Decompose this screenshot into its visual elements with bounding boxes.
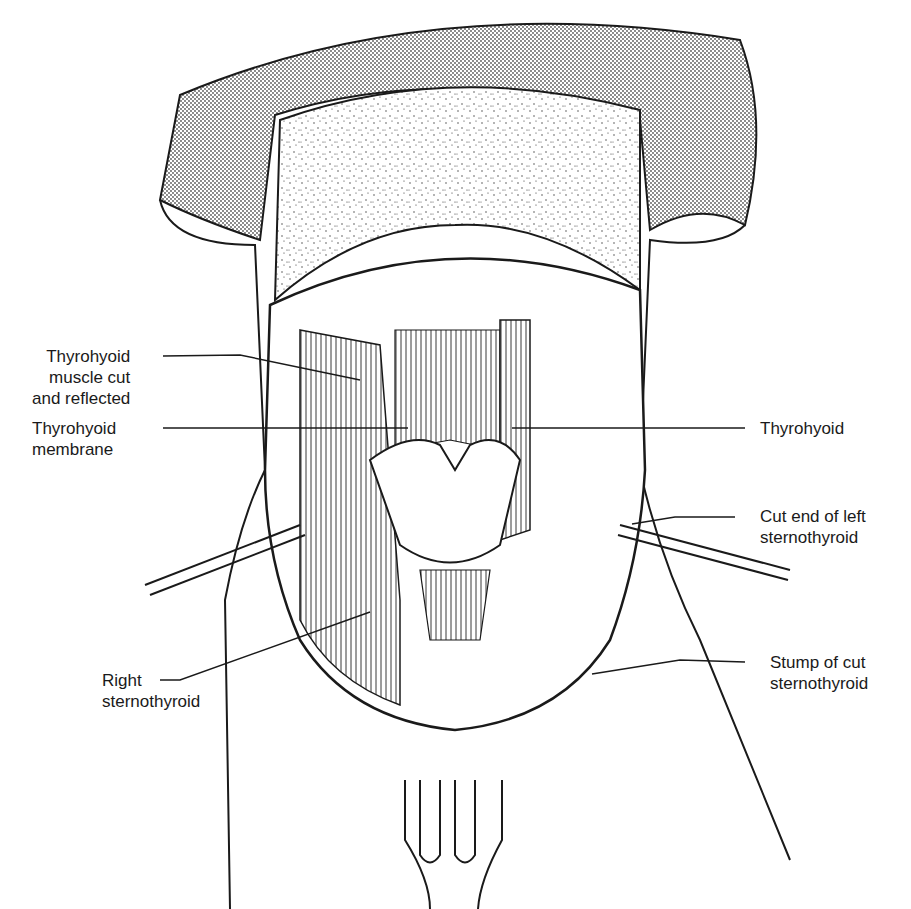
label-thyrohyoid-membrane: Thyrohyoid membrane (32, 418, 116, 460)
label-stump-cut-sternothyroid: Stump of cut sternothyroid (770, 652, 868, 694)
label-thyrohyoid-muscle-cut: Thyrohyoid muscle cut and reflected (32, 346, 130, 409)
label-right-sternothyroid: Right sternothyroid (102, 670, 200, 712)
anatomy-illustration (0, 0, 911, 909)
label-thyrohyoid: Thyrohyoid (760, 418, 844, 439)
cricoid-region (420, 570, 490, 640)
thyrohyoid-membrane-area (395, 330, 500, 450)
label-cut-end-left-sternothyroid: Cut end of left sternothyroid (760, 506, 866, 548)
neck-outline-left (160, 200, 265, 909)
retractor-bottom (405, 780, 502, 909)
